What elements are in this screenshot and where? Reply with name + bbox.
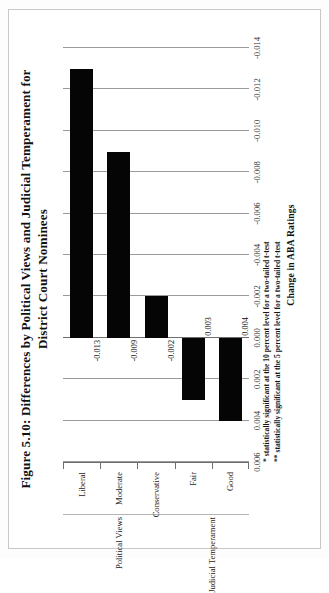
plot-inner: -0.013-0.009-0.0020.0030.004: [63, 48, 249, 462]
figure-container: Figure 5.10: Differences by Political Vi…: [9, 10, 320, 548]
bar: [219, 338, 242, 421]
figure-title: Figure 5.10: Differences by Political Vi…: [17, 48, 52, 510]
group-label: Judicial Temperament: [207, 517, 217, 593]
category-axis: LiberalModerateConservativeFairGood: [63, 462, 249, 514]
footnote: * statistically significant at the 10 pe…: [261, 48, 272, 462]
footnote: ** statistically significant at the 5 pe…: [272, 48, 283, 462]
category-tick: [100, 462, 101, 469]
category-tick: [175, 462, 176, 469]
category-label: Fair: [188, 472, 198, 486]
category-tick: [248, 462, 249, 469]
value-axis-title: Change in ABA Ratings: [285, 48, 296, 462]
category-label: Moderate: [114, 472, 124, 505]
bar-value-label: -0.009: [130, 340, 139, 362]
plot-area: -0.013-0.009-0.0020.0030.004: [63, 48, 249, 462]
bar: [107, 152, 130, 338]
rotated-figure-wrapper: Figure 5.10: Differences by Political Vi…: [9, 10, 320, 548]
bar: [70, 69, 93, 338]
bar-value-label: 0.003: [204, 317, 213, 336]
category-tick: [212, 462, 213, 469]
category-label: Conservative: [151, 472, 161, 517]
category-axis-line: [63, 462, 249, 463]
bar-value-label: -0.013: [93, 340, 102, 362]
gridline: [63, 461, 249, 462]
bar: [145, 296, 168, 337]
bar: [182, 338, 205, 400]
gridline: [63, 47, 249, 48]
category-label: Liberal: [77, 472, 87, 497]
bar-value-label: 0.004: [241, 317, 250, 336]
group-label: Political Views: [114, 517, 124, 569]
bar-value-label: -0.002: [167, 340, 176, 362]
category-tick: [63, 462, 64, 469]
category-tick: [137, 462, 138, 469]
group-separator: [175, 514, 249, 515]
figure-notes: * statistically significant at the 10 pe…: [261, 48, 284, 462]
group-axis: Political ViewsJudicial Temperament: [63, 514, 249, 548]
category-label: Good: [225, 472, 235, 491]
